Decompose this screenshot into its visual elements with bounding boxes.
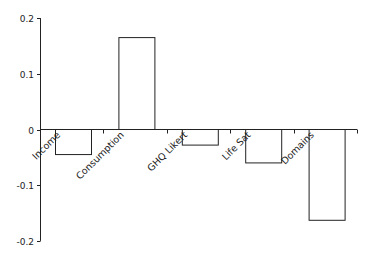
x-category-label: GHQ Likert bbox=[145, 129, 189, 173]
bar-chart: 0.20.10-0.1-0.2 IncomeConsumptionGHQ Lik… bbox=[0, 0, 374, 259]
y-tick-label: 0.2 bbox=[20, 14, 34, 24]
bar-consumption bbox=[119, 38, 155, 130]
bar-life-sat bbox=[246, 130, 282, 163]
bars bbox=[56, 38, 346, 221]
y-tick-label: 0 bbox=[28, 126, 34, 136]
y-axis: 0.20.10-0.1-0.2 bbox=[16, 14, 40, 247]
bar-income bbox=[56, 130, 92, 155]
y-tick-label: -0.1 bbox=[16, 181, 34, 191]
bar-domains bbox=[309, 130, 345, 221]
y-tick-label: -0.2 bbox=[16, 237, 34, 247]
y-tick-label: 0.1 bbox=[20, 70, 34, 80]
